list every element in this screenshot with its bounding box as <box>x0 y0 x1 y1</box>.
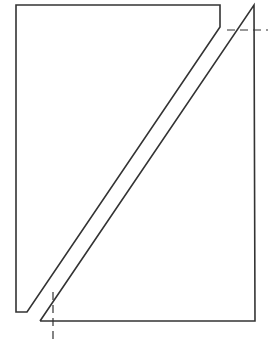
left-piece <box>16 5 220 312</box>
diagram-canvas <box>0 0 268 340</box>
right-piece <box>40 5 255 321</box>
